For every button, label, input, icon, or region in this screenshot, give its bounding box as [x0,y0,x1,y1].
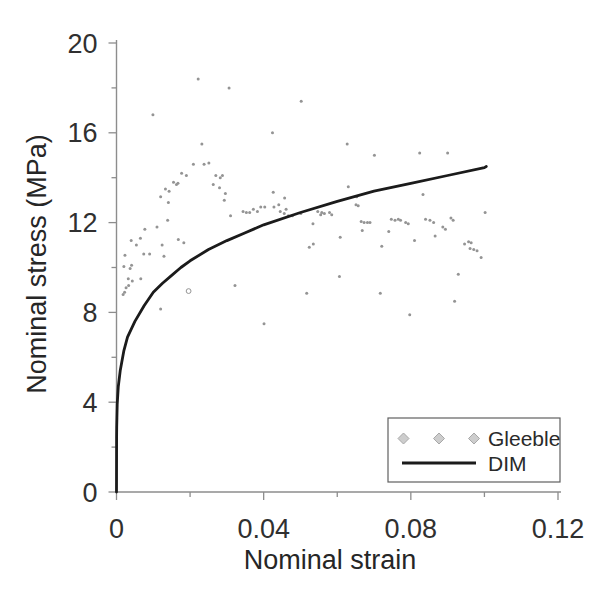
scatter-point [228,86,231,89]
scatter-point [338,275,341,278]
scatter-point [330,213,333,216]
scatter-point [256,210,259,213]
scatter-point [162,255,165,258]
scatter-point [168,190,171,193]
scatter-point [432,221,435,224]
scatter-point [203,163,206,166]
scatter-point [259,205,262,208]
scatter-point [421,193,424,196]
scatter-point [285,208,288,211]
scatter-point [463,242,466,245]
legend-label-gleeble: Gleeble [488,427,560,450]
scatter-point [186,289,191,294]
scatter-point [472,248,475,251]
scatter-point [279,210,282,213]
scatter-point [347,185,350,188]
scatter-point [200,143,203,146]
scatter-point [177,238,180,241]
scatter-point [413,239,416,242]
scatter-point [467,240,470,243]
x-tick-label: 0.08 [385,514,438,544]
scatter-point [242,210,245,213]
scatter-point [308,246,311,249]
scatter-point [263,322,266,325]
y-tick-label: 8 [82,298,97,328]
legend: Gleeble DIM [388,418,560,482]
scatter-point [418,152,421,155]
scatter-point [360,220,363,223]
scatter-point [357,204,360,207]
scatter-point [142,253,145,256]
scatter-point [283,212,286,215]
scatter-point [245,211,248,214]
scatter-point [373,154,376,157]
scatter-point [197,77,200,80]
y-tick-label: 16 [67,118,97,148]
scatter-point [428,219,431,222]
x-tick-label: 0 [109,514,124,544]
scatter-point [221,174,224,177]
scatter-point [446,152,449,155]
scatter-point [346,143,349,146]
scatter-point [135,244,138,247]
scatter-point [453,300,456,303]
scatter-point [441,226,444,229]
scatter-point [444,228,447,231]
scatter-point [129,267,132,270]
scatter-point [159,308,162,311]
scatter-point [192,163,195,166]
scatter-point [252,208,255,211]
scatter-point [130,264,133,267]
x-axis-title: Nominal strain [244,545,417,575]
scatter-point [387,230,390,233]
scatter-point [214,174,217,177]
scatter-point [484,211,487,214]
scatter-point [164,187,167,190]
scatter-point [328,211,331,214]
scatter-point [457,273,460,276]
scatter-point [312,242,315,245]
scatter-point [452,219,455,222]
scatter-point [229,214,232,217]
scatter-point [180,172,183,175]
scatter-point [122,265,125,268]
scatter-point [159,195,162,198]
x-tick-label: 0.12 [532,514,585,544]
scatter-point [390,218,393,221]
scatter-point [166,219,169,222]
scatter-point [212,183,215,186]
scatter-point [127,277,130,280]
scatter-point [380,245,383,248]
scatter-point [123,254,126,257]
scatter-point [219,176,222,179]
scatter-point [379,292,382,295]
scatter-point [233,284,236,287]
scatter-point [272,205,275,208]
scatter-point [172,181,175,184]
scatter-point [449,217,452,220]
y-tick-label: 12 [67,208,97,238]
scatter-point [139,237,142,240]
scatter-point [223,199,226,202]
scatter-point [139,277,142,280]
scatter-point [361,229,364,232]
scatter-point [316,210,319,213]
scatter-point [339,236,342,239]
scatter-point [476,249,479,252]
scatter-point [224,192,227,195]
scatter-point [151,113,154,116]
scatter-point [155,226,158,229]
scatter-point [319,213,322,216]
scatter-point [283,196,286,199]
stress-strain-chart: 00.040.080.12048121620 Nominal stress (M… [0,0,608,606]
scatter-point [125,286,128,289]
scatter-point [394,219,397,222]
scatter-point [277,203,280,206]
scatter-point [143,228,146,231]
scatter-point [424,218,427,221]
scatter-point [404,221,407,224]
scatter-point [271,131,274,134]
scatter-point [248,211,251,214]
scatter-point [218,186,221,189]
legend-label-dim: DIM [488,452,527,475]
